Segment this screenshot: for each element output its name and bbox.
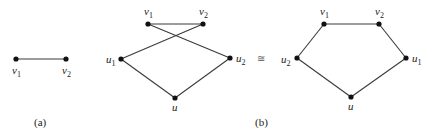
label-u2: u2 [236,52,246,67]
edge-u2-v1 [297,24,324,58]
label-v2: v2 [375,5,384,20]
node-u1 [118,56,123,61]
label-v2: v2 [62,64,71,79]
isomorphic-symbol: ≅ [257,53,265,64]
edge-u1-u [121,59,175,98]
node-v2 [63,56,68,61]
edge-u1-u [351,58,406,97]
node-v2 [200,21,205,26]
edge-v2-u1 [379,24,406,58]
edge-u-u2 [297,58,351,97]
node-u [172,95,177,100]
caption-a: (a) [34,116,47,129]
node-u1 [403,55,408,60]
label-u1: u1 [106,53,116,68]
node-v2 [376,21,381,26]
caption-b: (b) [255,116,268,129]
node-u2 [294,55,299,60]
panel-b-left-graph: v1 v2 u1 u2 u [106,5,246,113]
label-v1: v1 [144,5,153,20]
graph-diagram: v1 v2 (a) v1 v2 u1 u2 u ≅ v1 v2 u1 [0,0,436,134]
node-u2 [227,55,232,60]
label-u2: u2 [281,53,291,68]
label-v2: v2 [199,5,208,20]
node-u [348,94,353,99]
label-v1: v1 [320,5,329,20]
panel-b-right-graph: v1 v2 u1 u2 u [281,5,422,112]
node-v1 [321,21,326,26]
edge-u2-u [175,58,230,98]
label-u: u [172,101,178,113]
label-u: u [348,100,354,112]
label-v1: v1 [12,64,21,79]
node-v1 [145,21,150,26]
node-v1 [13,56,18,61]
edge-v1-u2 [148,24,230,58]
panel-a: v1 v2 (a) [12,56,71,129]
label-u1: u1 [412,52,422,67]
